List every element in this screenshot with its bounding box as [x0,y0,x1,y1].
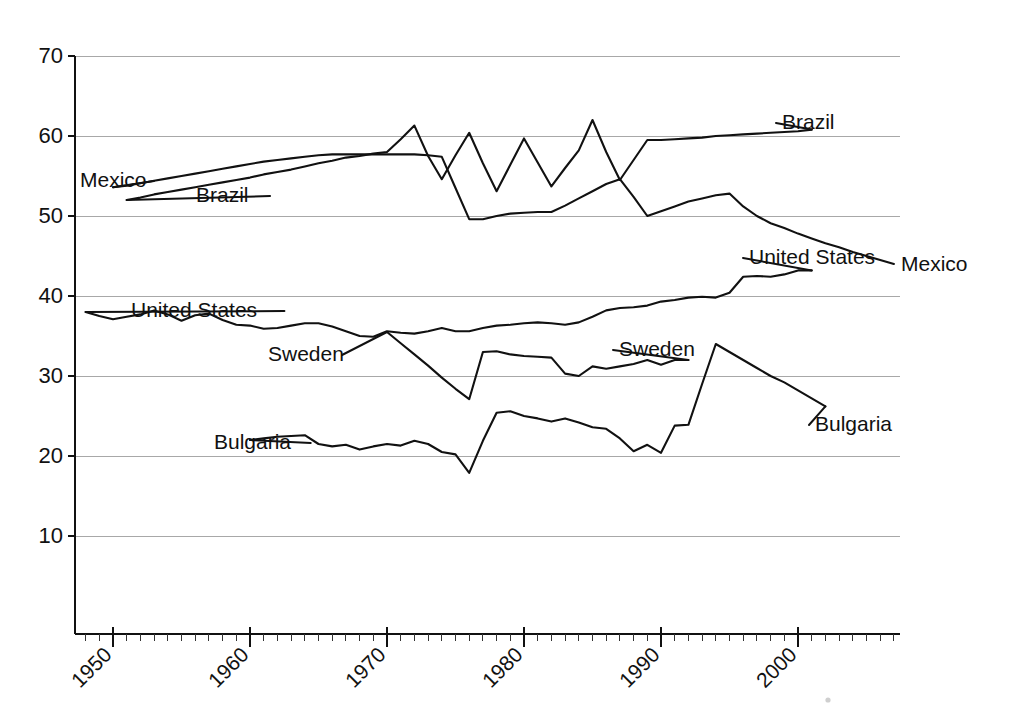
y-tick-label-60: 60 [39,123,63,148]
series-label-sweden-left: Sweden [268,342,344,365]
x-tick-label-1960: 1960 [204,643,253,692]
x-tick-label-1980: 1980 [478,643,527,692]
x-tick-label-1970: 1970 [341,643,390,692]
y-tick-label-50: 50 [39,203,63,228]
y-tick-label-group: 10203040506070 [39,43,75,548]
x-tick-group [86,627,894,647]
y-tick-label-10: 10 [39,523,63,548]
page-speck [825,697,830,702]
series-label-mexico-right: Mexico [901,252,968,275]
x-tick-label-group: 195019601970198019902000 [67,643,801,692]
series-label-united-states-right: United States [749,245,875,268]
y-tick-label-30: 30 [39,363,63,388]
line-chart: 10203040506070 195019601970198019902000 … [0,0,1011,720]
chart-container: 10203040506070 195019601970198019902000 … [0,0,1011,720]
y-tick-label-70: 70 [39,43,63,68]
x-tick-label-2000: 2000 [752,643,801,692]
axes-group [75,56,900,634]
series-label-united-states-left: United States [131,298,257,321]
series-label-mexico-left: Mexico [80,168,147,191]
series-label-bulgaria-right: Bulgaria [815,412,892,435]
x-tick-label-1990: 1990 [615,643,664,692]
y-tick-label-20: 20 [39,443,63,468]
series-label-group: MexicoBrazilBrazilMexicoUnited StatesUni… [80,110,968,453]
leader-line-group [86,123,826,443]
gridlines-group [75,56,900,536]
series-label-sweden-right: Sweden [619,337,695,360]
series-label-bulgaria-left: Bulgaria [214,430,291,453]
y-tick-label-40: 40 [39,283,63,308]
series-label-brazil-right: Brazil [782,110,835,133]
series-label-brazil-left: Brazil [196,183,249,206]
x-tick-label-1950: 1950 [67,643,116,692]
